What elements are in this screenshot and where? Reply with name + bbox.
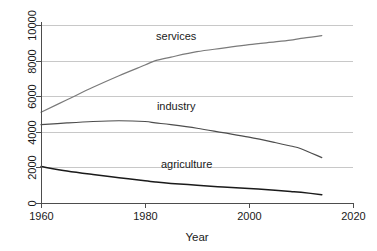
chart-container: 1960198020002020 0200040006000800010000 … <box>0 0 377 251</box>
x-tick-label-2020: 2020 <box>341 210 365 222</box>
series-label-services: services <box>156 30 197 42</box>
y-tick-label-10000: 10000 <box>26 10 38 41</box>
series-line-agriculture <box>41 167 322 195</box>
x-tick-label-2000: 2000 <box>237 210 261 222</box>
series-label-industry: industry <box>157 100 196 112</box>
x-axis-ticks: 1960198020002020 <box>29 203 365 222</box>
x-tick-label-1960: 1960 <box>29 210 53 222</box>
y-tick-label-0: 0 <box>26 200 38 206</box>
series-label-agriculture: agriculture <box>161 158 212 170</box>
x-tick-label-1980: 1980 <box>133 210 157 222</box>
line-chart: 1960198020002020 0200040006000800010000 … <box>0 0 377 251</box>
y-tick-label-8000: 8000 <box>26 49 38 73</box>
y-tick-label-6000: 6000 <box>26 84 38 108</box>
series-lines <box>41 36 322 195</box>
y-axis-ticks: 0200040006000800010000 <box>26 10 41 206</box>
x-axis-title: Year <box>185 231 208 243</box>
y-tick-label-4000: 4000 <box>26 120 38 144</box>
series-line-industry <box>41 121 322 158</box>
axes <box>41 22 353 206</box>
y-tick-label-2000: 2000 <box>26 155 38 179</box>
